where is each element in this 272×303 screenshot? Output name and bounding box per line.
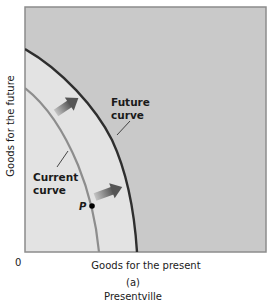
future-curve-label-line1: Future bbox=[111, 96, 150, 108]
x-axis-label: Goods for the present bbox=[91, 260, 200, 271]
point-p-label: P bbox=[79, 201, 87, 212]
current-curve-label-line1: Current bbox=[33, 171, 78, 183]
y-axis-label: Goods for the future bbox=[5, 75, 16, 176]
future-curve-label-line2: curve bbox=[111, 109, 144, 121]
point-p bbox=[89, 203, 95, 209]
figure-caption: Presentville bbox=[104, 291, 162, 302]
ppf-diagram: Future curve Current curve P Goods for t… bbox=[0, 0, 272, 303]
current-curve-label-line2: curve bbox=[33, 184, 66, 196]
panel-label: (a) bbox=[126, 277, 140, 288]
origin-label: 0 bbox=[15, 257, 21, 268]
